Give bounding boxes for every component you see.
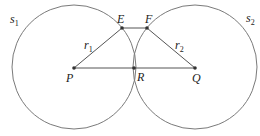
label-s1: s1 [10,12,19,28]
label-r1: r1 [84,38,93,54]
label-R: R [136,70,145,84]
point-F [145,26,149,30]
label-Q: Q [192,71,201,85]
point-Q [193,66,197,70]
label-P: P [65,71,74,85]
two-circles-diagram: P R Q E F s1 s2 r1 r2 [0,0,260,136]
label-E: E [116,12,125,26]
segment-FQ [147,28,195,68]
label-s2: s2 [246,11,255,27]
point-P [72,66,76,70]
label-r2: r2 [175,38,184,54]
segment-PE [74,28,122,68]
point-R [132,66,136,70]
label-F: F [144,12,153,26]
point-E [120,26,124,30]
